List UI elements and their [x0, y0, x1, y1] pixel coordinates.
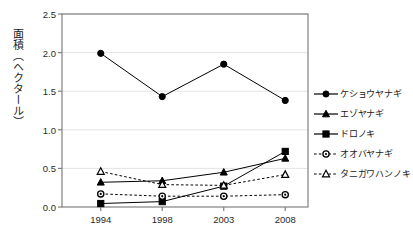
series-0	[98, 50, 289, 103]
legend-item-1[interactable]: エゾヤナギ	[313, 104, 413, 124]
legend-label: オオバヤナギ	[339, 149, 393, 159]
data-point-open-circle	[159, 193, 165, 199]
legend-item-4[interactable]: タニガワハンノキ	[313, 164, 413, 184]
data-point-open-circle	[221, 193, 227, 199]
legend-marker-filled-triangle-icon	[313, 107, 339, 121]
legend-label: エゾヤナギ	[339, 109, 384, 119]
data-point-filled-circle	[98, 50, 104, 56]
series-4	[97, 168, 289, 188]
axis-ticks	[58, 14, 285, 211]
data-point-open-circle	[323, 151, 329, 157]
legend-marker-open-triangle-icon	[313, 167, 339, 181]
series-1	[97, 155, 289, 185]
legend-label: ケショウヤナギ	[339, 89, 402, 99]
series-3	[98, 191, 289, 200]
series-line	[101, 171, 286, 185]
series-2	[98, 148, 289, 206]
gridlines	[62, 14, 308, 168]
legend-label: ドロノキ	[339, 129, 375, 139]
legend-marker-filled-circle-icon	[313, 87, 339, 101]
data-point-filled-square	[323, 131, 329, 137]
data-point-filled-square	[282, 148, 288, 154]
data-point-open-circle	[98, 191, 104, 197]
legend-item-3[interactable]: オオバヤナギ	[313, 144, 413, 164]
data-point-filled-circle	[159, 94, 165, 100]
series-line	[101, 158, 286, 182]
legend-item-0[interactable]: ケショウヤナギ	[313, 84, 413, 104]
legend-label: タニガワハンノキ	[339, 169, 410, 179]
data-point-open-circle	[282, 192, 288, 198]
data-point-filled-triangle	[282, 155, 289, 162]
series-line	[101, 53, 286, 100]
data-series	[97, 50, 289, 206]
data-point-open-triangle	[282, 171, 289, 178]
data-point-filled-circle	[323, 91, 329, 97]
data-point-filled-circle	[221, 61, 227, 67]
legend: ケショウヤナギエゾヤナギドロノキオオバヤナギタニガワハンノキ	[313, 84, 413, 184]
chart-container: 面積（ヘクタール） 0.00.51.01.52.02.5 19941998200…	[0, 0, 413, 243]
legend-marker-open-circle-icon	[313, 147, 339, 161]
legend-item-2[interactable]: ドロノキ	[313, 124, 413, 144]
legend-marker-filled-square-icon	[313, 127, 339, 141]
data-point-filled-circle	[282, 97, 288, 103]
data-point-filled-square	[98, 200, 104, 206]
